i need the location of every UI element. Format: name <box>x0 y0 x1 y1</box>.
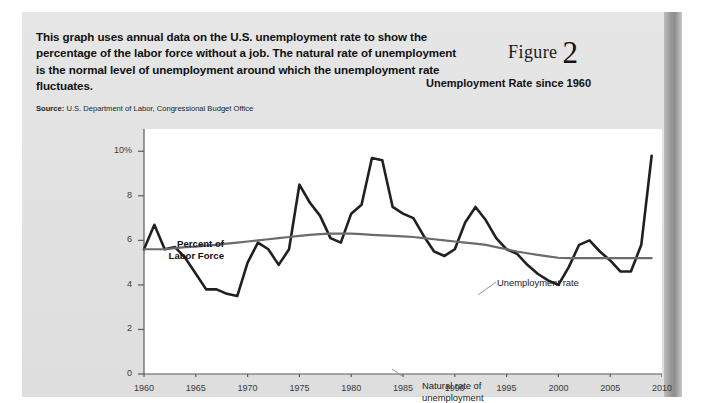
figure-header: This graph uses annual data on the U.S. … <box>22 12 682 120</box>
x-tick-label: 1985 <box>386 383 420 393</box>
y-tick-label: 4 <box>102 279 132 289</box>
unemployment-rate-annotation: Unemployment rate <box>497 277 579 289</box>
series-lines <box>144 156 652 296</box>
x-tick-label: 1970 <box>231 383 265 393</box>
natural-rate-annotation: Natural rate of unemployment <box>422 380 484 403</box>
source-text: U.S. Department of Labor, Congressional … <box>64 104 253 113</box>
y-axis-title: Percent of Labor Force <box>164 238 224 261</box>
x-tick-label: 1965 <box>179 383 213 393</box>
figure-subtitle: Unemployment Rate since 1960 <box>426 76 596 91</box>
figure-description: This graph uses annual data on the U.S. … <box>36 29 466 95</box>
axis-ticks <box>138 151 662 377</box>
x-tick-label: 1960 <box>127 383 161 393</box>
figure-card: This graph uses annual data on the U.S. … <box>22 12 682 397</box>
y-tick-label: 0 <box>102 368 132 378</box>
intro-block: This graph uses annual data on the U.S. … <box>36 29 466 113</box>
y-tick-label: 8 <box>102 190 132 200</box>
annotation-leader-lines <box>392 282 496 377</box>
y-tick-label: 10% <box>102 145 132 155</box>
x-tick-label: 1995 <box>490 383 524 393</box>
series-line <box>144 156 652 296</box>
chart-container: Percent of Labor Force 0246810%196019651… <box>122 119 662 377</box>
x-tick-label: 2005 <box>593 383 627 393</box>
x-tick-label: 1975 <box>282 383 316 393</box>
figure-number: 2 <box>563 35 579 70</box>
figure-word: Figure <box>508 42 557 62</box>
source-label: Source: <box>36 104 64 113</box>
x-tick-label: 1980 <box>334 383 368 393</box>
y-tick-label: 2 <box>102 323 132 333</box>
y-tick-label: 6 <box>102 234 132 244</box>
source-line: Source: U.S. Department of Labor, Congre… <box>36 104 466 113</box>
x-tick-label: 2010 <box>645 383 679 393</box>
annotation-leader-line <box>478 282 496 295</box>
y-axis-title-line1: Percent of <box>164 238 224 250</box>
y-axis-title-line2: Labor Force <box>164 250 224 262</box>
x-tick-label: 2000 <box>541 383 575 393</box>
figure-number-block: Figure2 Unemployment Rate since 1960 <box>426 30 596 91</box>
annotation-leader-line <box>392 369 411 377</box>
figure-title-row: Figure2 <box>426 30 596 66</box>
